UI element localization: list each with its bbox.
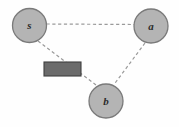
node-s-label: s (26, 19, 31, 31)
node-s: s (13, 9, 47, 43)
node-a: a (134, 9, 168, 43)
edge-s-a (47, 24, 135, 25)
node-a-label: a (148, 20, 154, 32)
node-b-label: b (103, 95, 109, 107)
graph-diagram: s a b (0, 0, 179, 127)
edge-a-b (114, 43, 145, 85)
node-b: b (89, 84, 123, 118)
figure-canvas: s a b (0, 0, 179, 127)
obstacle-rect (44, 62, 81, 76)
